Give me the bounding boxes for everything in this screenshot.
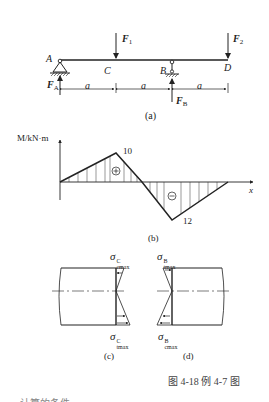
subfigure-a-label: (a) — [145, 111, 156, 121]
span-a-1: a — [85, 81, 90, 91]
force-F2-label: F2 — [233, 34, 243, 46]
stress-diagram-d — [157, 268, 231, 325]
subfigure-c-label: (c) — [104, 352, 114, 361]
sigma-b-cmax-label: σBcmax — [158, 331, 177, 350]
span-a-3: a — [197, 81, 202, 91]
force-FB-label: FB — [176, 96, 187, 108]
point-B-label: B — [160, 66, 166, 76]
force-FA-label: FA — [47, 80, 59, 92]
partial-text-line: ……计算的条件…… — [0, 395, 90, 402]
moment-diagram — [60, 140, 253, 220]
stress-diagram-c — [52, 268, 130, 325]
sigma-c-cmax-label: σCcmax — [110, 251, 129, 270]
sigma-c-tmax-label: σCtmax — [110, 331, 128, 350]
figure-drawing — [0, 0, 269, 402]
point-A-label: A — [46, 54, 52, 64]
subfigure-d-label: (d) — [183, 352, 194, 361]
trough-value-label: 12 — [183, 217, 192, 226]
point-C-label: C — [104, 66, 111, 76]
beam — [50, 33, 228, 102]
figure-caption: 图 4-18 例 4-7 图 — [168, 373, 240, 388]
x-axis-label: x — [249, 186, 253, 195]
force-F1-label: F1 — [122, 34, 132, 46]
subfigure-b-label: (b) — [148, 234, 159, 243]
peak-value-label: 10 — [123, 147, 132, 156]
span-a-2: a — [141, 81, 146, 91]
sigma-b-tmax-label: σBtmax — [157, 251, 175, 270]
point-D-label: D — [224, 63, 231, 73]
y-axis-label: M/kN·m — [17, 134, 49, 143]
